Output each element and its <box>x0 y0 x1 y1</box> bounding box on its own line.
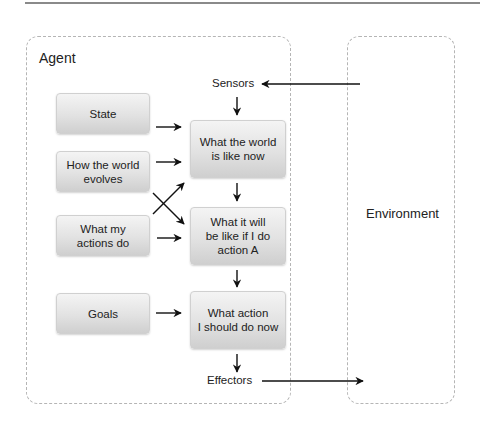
arrows-layer <box>0 0 480 427</box>
